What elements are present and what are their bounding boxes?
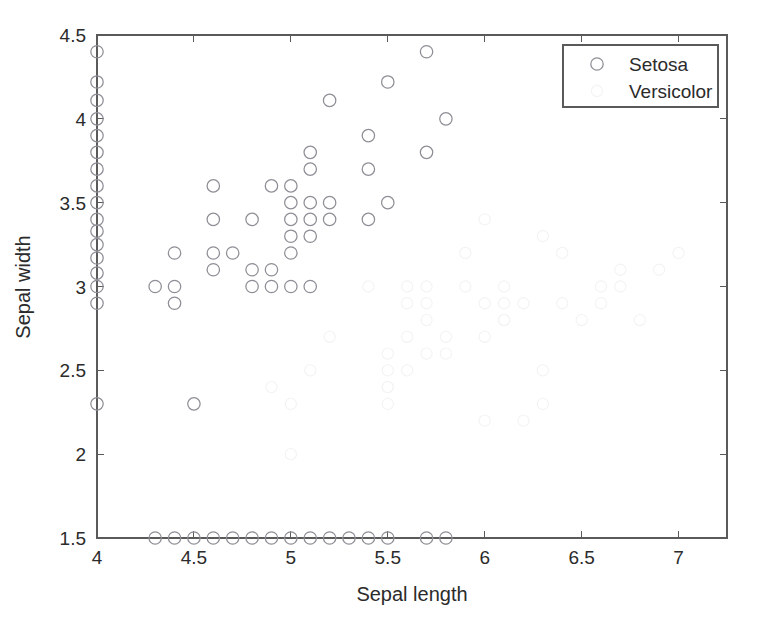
data-point[interactable] [168, 280, 180, 292]
data-point[interactable] [285, 213, 297, 225]
series-versicolor-points[interactable] [266, 214, 684, 460]
data-point[interactable] [595, 281, 606, 292]
data-point[interactable] [421, 348, 432, 359]
data-point[interactable] [537, 365, 548, 376]
data-point[interactable] [595, 298, 606, 309]
data-point[interactable] [537, 231, 548, 242]
data-point[interactable] [304, 163, 316, 175]
x-axis-ticks [97, 35, 679, 538]
data-point[interactable] [207, 180, 219, 192]
series-setosa-points[interactable] [91, 46, 452, 545]
data-point[interactable] [440, 331, 451, 342]
data-point[interactable] [382, 196, 394, 208]
data-point[interactable] [285, 398, 296, 409]
data-point[interactable] [576, 314, 587, 325]
data-point[interactable] [362, 163, 374, 175]
data-point[interactable] [285, 280, 297, 292]
data-point[interactable] [304, 213, 316, 225]
data-point[interactable] [498, 281, 509, 292]
data-point[interactable] [285, 180, 297, 192]
data-point[interactable] [615, 264, 626, 275]
data-point[interactable] [362, 129, 374, 141]
legend-label[interactable]: Setosa [629, 54, 689, 75]
y-axis-title: Sepal width [12, 235, 34, 338]
data-point[interactable] [440, 113, 452, 125]
y-tick-label: 4 [75, 109, 86, 130]
data-point[interactable] [479, 298, 490, 309]
data-point[interactable] [188, 398, 200, 410]
data-point[interactable] [498, 298, 509, 309]
data-point[interactable] [402, 365, 413, 376]
data-point[interactable] [460, 247, 471, 258]
data-point[interactable] [207, 264, 219, 276]
data-point[interactable] [479, 415, 490, 426]
data-point[interactable] [168, 297, 180, 309]
data-point[interactable] [285, 247, 297, 259]
data-point[interactable] [382, 348, 393, 359]
data-point[interactable] [304, 230, 316, 242]
data-point[interactable] [518, 298, 529, 309]
data-point[interactable] [305, 365, 316, 376]
data-point[interactable] [323, 213, 335, 225]
data-point[interactable] [557, 247, 568, 258]
data-point[interactable] [285, 230, 297, 242]
data-point[interactable] [285, 449, 296, 460]
data-point[interactable] [420, 146, 432, 158]
data-point[interactable] [460, 281, 471, 292]
scatter-plot[interactable]: 44.555.566.57 1.522.533.544.5 Sepal leng… [0, 0, 760, 633]
data-point[interactable] [207, 247, 219, 259]
x-tick-label: 5 [286, 547, 297, 568]
data-point[interactable] [402, 298, 413, 309]
data-point[interactable] [634, 314, 645, 325]
data-point[interactable] [479, 331, 490, 342]
data-point[interactable] [304, 280, 316, 292]
data-point[interactable] [226, 247, 238, 259]
data-point[interactable] [673, 247, 684, 258]
data-point[interactable] [654, 264, 665, 275]
y-tick-label: 3 [75, 277, 86, 298]
data-point[interactable] [421, 281, 432, 292]
data-point[interactable] [168, 247, 180, 259]
data-point[interactable] [421, 314, 432, 325]
data-point[interactable] [402, 331, 413, 342]
data-point[interactable] [363, 281, 374, 292]
x-tick-label: 4 [92, 547, 103, 568]
y-axis-tick-labels: 1.522.533.544.5 [60, 25, 87, 549]
data-point[interactable] [246, 280, 258, 292]
data-point[interactable] [402, 281, 413, 292]
data-point[interactable] [382, 398, 393, 409]
data-point[interactable] [421, 298, 432, 309]
data-point[interactable] [498, 314, 509, 325]
data-point[interactable] [362, 213, 374, 225]
data-point[interactable] [207, 213, 219, 225]
data-point[interactable] [382, 382, 393, 393]
data-point[interactable] [382, 76, 394, 88]
data-point[interactable] [323, 94, 335, 106]
data-point[interactable] [265, 264, 277, 276]
legend-label[interactable]: Versicolor [629, 81, 713, 102]
x-tick-label: 6 [479, 547, 490, 568]
data-point[interactable] [266, 382, 277, 393]
data-point[interactable] [420, 46, 432, 58]
data-point[interactable] [304, 196, 316, 208]
data-point[interactable] [304, 146, 316, 158]
data-point[interactable] [479, 214, 490, 225]
y-tick-label: 1.5 [60, 528, 86, 549]
data-point[interactable] [246, 213, 258, 225]
data-point[interactable] [518, 415, 529, 426]
data-point[interactable] [382, 365, 393, 376]
data-point[interactable] [324, 331, 335, 342]
data-point[interactable] [615, 281, 626, 292]
data-point[interactable] [265, 180, 277, 192]
data-point[interactable] [557, 298, 568, 309]
axes-frame [97, 35, 727, 538]
data-point[interactable] [285, 196, 297, 208]
data-point[interactable] [323, 196, 335, 208]
data-point[interactable] [440, 348, 451, 359]
data-point[interactable] [265, 280, 277, 292]
data-point[interactable] [537, 398, 548, 409]
plot-border [97, 35, 727, 538]
data-point[interactable] [246, 264, 258, 276]
legend[interactable]: SetosaVersicolor [563, 45, 718, 107]
data-point[interactable] [149, 280, 161, 292]
